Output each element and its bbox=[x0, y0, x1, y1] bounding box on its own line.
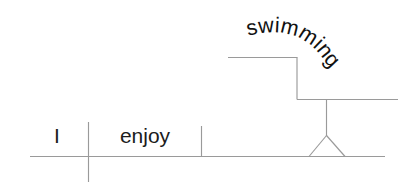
gerund-pedestal-left-leg bbox=[309, 136, 327, 157]
gerund-pedestal-right-leg bbox=[327, 136, 346, 157]
sentence-diagram: I enjoy swimming bbox=[0, 0, 403, 190]
verb-word: enjoy bbox=[120, 124, 171, 147]
object-word: swimming bbox=[244, 13, 345, 72]
diagram-canvas: I enjoy swimming bbox=[0, 0, 403, 190]
subject-word: I bbox=[54, 124, 60, 147]
object-word-textpath: swimming bbox=[244, 13, 345, 72]
